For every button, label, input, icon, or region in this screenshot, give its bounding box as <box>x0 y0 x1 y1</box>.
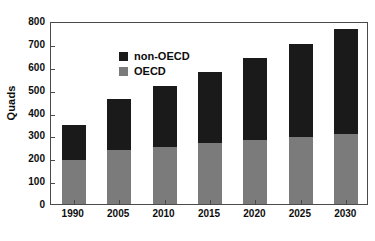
y-axis-tick-label: 300 <box>28 131 45 141</box>
x-axis-tick-mark <box>346 200 347 204</box>
stacked-bar-chart: Quads 0100200300400500600700800 non-OECD… <box>0 0 375 241</box>
bar-segment-oecd[interactable] <box>243 140 267 204</box>
bar-segment-non-oecd[interactable] <box>153 86 177 147</box>
x-axis-tick-label: 2010 <box>152 209 174 219</box>
bar-segment-oecd[interactable] <box>289 137 313 204</box>
bars-layer <box>51 23 367 204</box>
bar-segment-non-oecd[interactable] <box>198 72 222 144</box>
x-axis-tick-mark <box>301 200 302 204</box>
y-axis-tick-mark <box>51 46 55 47</box>
legend-swatch-icon-non-oecd <box>119 52 128 61</box>
bar-segment-non-oecd[interactable] <box>334 29 358 134</box>
bar-segment-non-oecd[interactable] <box>243 58 267 140</box>
y-axis-tick-label: 600 <box>28 63 45 73</box>
y-axis-tick-mark <box>51 115 55 116</box>
bar-segment-non-oecd[interactable] <box>107 99 131 150</box>
x-axis-tick-label: 2020 <box>243 209 265 219</box>
y-axis-title: Quads <box>0 0 22 205</box>
legend-label-non-oecd: non-OECD <box>134 51 190 62</box>
legend: non-OECD OECD <box>119 51 190 81</box>
bar-segment-oecd[interactable] <box>107 150 131 204</box>
x-axis-tick-mark <box>210 200 211 204</box>
y-axis-tick-label: 0 <box>39 200 45 210</box>
y-axis-tick-label: 200 <box>28 154 45 164</box>
y-axis-tick-label: 800 <box>28 17 45 27</box>
y-axis-tick-label: 500 <box>28 86 45 96</box>
y-axis-tick-mark <box>51 137 55 138</box>
bar-segment-oecd[interactable] <box>62 160 86 204</box>
bar-segment-oecd[interactable] <box>198 143 222 204</box>
y-axis-tick-mark <box>51 69 55 70</box>
bar-segment-non-oecd[interactable] <box>62 125 86 160</box>
x-axis-tick-mark <box>119 200 120 204</box>
bar-segment-non-oecd[interactable] <box>289 44 313 137</box>
x-axis-tick-mark <box>255 200 256 204</box>
x-axis-tick-label: 2025 <box>289 209 311 219</box>
bar-segment-oecd[interactable] <box>153 147 177 204</box>
y-axis-tick-mark <box>51 92 55 93</box>
y-axis-tick-label: 400 <box>28 109 45 119</box>
y-axis-tick-label: 700 <box>28 40 45 50</box>
x-axis-tick-mark <box>165 200 166 204</box>
plot-area: non-OECD OECD <box>50 22 368 205</box>
x-axis-tick-labels: 1990200520102015202020252030 <box>50 209 368 229</box>
legend-item-non-oecd: non-OECD <box>119 51 190 62</box>
y-axis-tick-labels: 0100200300400500600700800 <box>22 22 48 205</box>
x-axis-tick-label: 2005 <box>107 209 129 219</box>
y-axis-tick-mark <box>51 183 55 184</box>
legend-item-oecd: OECD <box>119 66 190 77</box>
x-axis-tick-mark <box>74 200 75 204</box>
legend-swatch-icon-oecd <box>119 67 128 76</box>
bar-segment-oecd[interactable] <box>334 134 358 204</box>
y-axis-title-label: Quads <box>5 85 17 120</box>
x-axis-tick-label: 1990 <box>62 209 84 219</box>
y-axis-tick-mark <box>51 160 55 161</box>
legend-label-oecd: OECD <box>134 66 166 77</box>
x-axis-tick-label: 2015 <box>198 209 220 219</box>
x-axis-tick-label: 2030 <box>334 209 356 219</box>
y-axis-tick-label: 100 <box>28 177 45 187</box>
